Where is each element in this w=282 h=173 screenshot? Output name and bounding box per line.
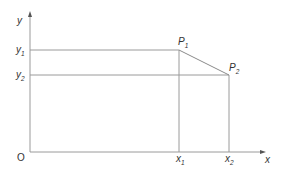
y-axis-arrow-icon [28, 11, 32, 17]
y2-label: y2 [15, 69, 25, 82]
p1-label: P1 [178, 36, 189, 49]
origin-label: O [17, 152, 25, 163]
x-axis-label: x [264, 154, 271, 165]
x1-label: x1 [175, 153, 185, 166]
p1-p2-segment [179, 50, 229, 75]
p2-label: P2 [229, 62, 240, 75]
y-axis-label: y [16, 15, 23, 26]
y1-label: y1 [15, 44, 25, 57]
x2-label: x2 [224, 153, 234, 166]
diagram-canvas: y x O y1 y2 x1 x2 P1 P2 [0, 0, 282, 173]
